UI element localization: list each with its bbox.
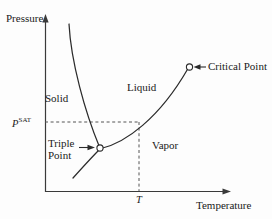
critical-point-marker <box>186 64 192 70</box>
triple-point-marker <box>97 145 103 151</box>
sublimation-curve <box>73 150 99 178</box>
critical-point-arrow-head <box>194 64 201 69</box>
y-axis-label: Pressure <box>6 13 43 25</box>
triple-point-label: Triple Point <box>48 138 75 161</box>
point-markers-group <box>97 64 193 151</box>
region-label-solid: Solid <box>45 93 68 105</box>
x-axis-label: Temperature <box>196 200 251 212</box>
x-axis-arrowhead <box>223 188 232 194</box>
triple-point-label-line2: Point <box>48 150 75 162</box>
triple-point-label-line1: Triple <box>48 138 75 150</box>
psat-superscript: SAT <box>18 116 31 124</box>
y-axis-arrowhead <box>42 14 48 23</box>
annotation-arrows-group <box>79 64 206 150</box>
y-tick-label-psat: PSAT <box>12 115 31 129</box>
triple-point-arrow-head <box>88 145 96 151</box>
region-label-liquid: Liquid <box>127 82 156 94</box>
phase-diagram-figure: Pressure Temperature Solid Liquid Vapor … <box>0 0 272 219</box>
phase-diagram-canvas <box>0 0 272 219</box>
region-label-vapor: Vapor <box>152 140 178 152</box>
critical-point-label: Critical Point <box>208 61 267 73</box>
x-tick-label-temperature: T <box>136 194 142 206</box>
fusion-curve <box>69 24 100 147</box>
phase-boundary-curves <box>69 24 188 178</box>
